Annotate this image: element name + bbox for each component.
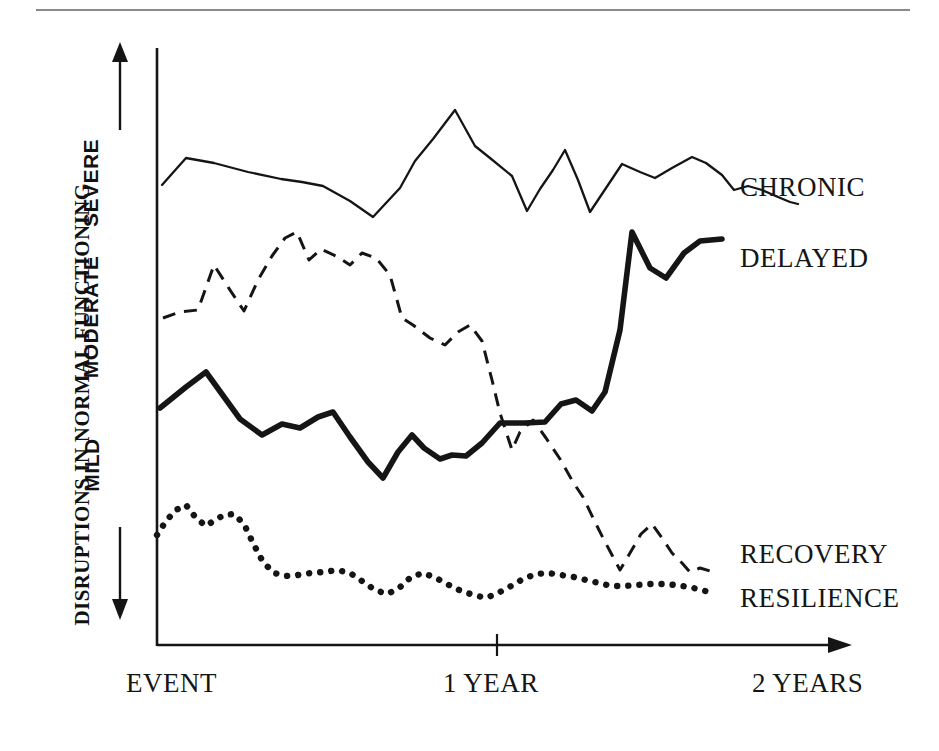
- chart-plot-area: [0, 0, 939, 751]
- severity-up-arrow-icon: [112, 42, 128, 130]
- figure-canvas: DISRUPTIONS IN NORMAL FUNCTIONING SEVERE…: [0, 0, 939, 751]
- x-axis-arrow-icon: [828, 637, 852, 653]
- severity-down-arrow-icon: [112, 527, 128, 620]
- series-line-resilience: [157, 505, 712, 598]
- x-tick-label-2-years: 2 YEARS: [752, 668, 863, 699]
- series-line-recovery: [160, 232, 722, 478]
- series-label-recovery: RECOVERY: [740, 539, 888, 570]
- series-label-resilience: RESILIENCE: [740, 583, 900, 614]
- series-line-chronic-path: [162, 110, 798, 217]
- series-label-delayed: DELAYED: [740, 243, 869, 274]
- y-scale-label-moderate: MODERATE: [79, 222, 103, 412]
- x-tick-label-event: EVENT: [126, 668, 217, 699]
- x-tick-label-1-year: 1 YEAR: [443, 668, 539, 699]
- y-scale-label-mild: MILD: [80, 398, 104, 533]
- series-label-chronic: CHRONIC: [740, 172, 865, 203]
